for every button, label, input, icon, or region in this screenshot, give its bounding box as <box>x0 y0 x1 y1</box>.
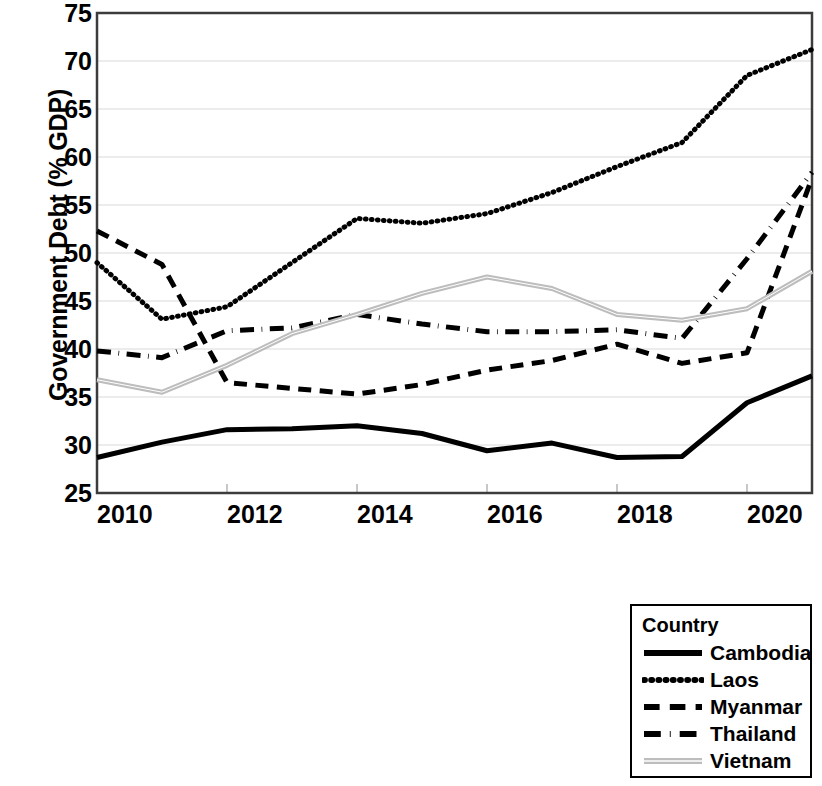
legend-item-label: Laos <box>710 668 759 692</box>
line-dotted-swatch <box>642 670 704 690</box>
line-thin-swatch <box>642 751 704 771</box>
legend-item[interactable]: Vietnam <box>642 747 810 774</box>
chart-figure: Government Debt (% GDP) 75 70 65 60 55 5… <box>0 0 822 786</box>
line-dashed-swatch <box>642 697 704 717</box>
axis-ticks <box>97 484 747 493</box>
legend-item[interactable]: Laos <box>642 666 810 693</box>
line-dashdot-swatch <box>642 724 704 744</box>
legend: Country CambodiaLaosMyanmarThailandVietn… <box>630 604 812 778</box>
legend-item-label: Myanmar <box>710 695 802 719</box>
series-vietnam <box>97 271 812 392</box>
legend-item[interactable]: Thailand <box>642 720 810 747</box>
x-tick-labels: 2010 2012 2014 2016 2018 2020 <box>0 498 822 538</box>
series-laos <box>97 49 812 319</box>
legend-item[interactable]: Cambodia <box>642 639 810 666</box>
plot-area <box>0 0 822 500</box>
legend-item-label: Thailand <box>710 722 796 746</box>
line-solid-swatch <box>642 643 704 663</box>
series-thailand <box>97 172 812 357</box>
legend-title: Country <box>642 612 810 638</box>
legend-item-label: Cambodia <box>710 641 812 665</box>
legend-item[interactable]: Myanmar <box>642 693 810 720</box>
legend-items: CambodiaLaosMyanmarThailandVietnam <box>642 639 810 774</box>
legend-item-label: Vietnam <box>710 749 791 773</box>
